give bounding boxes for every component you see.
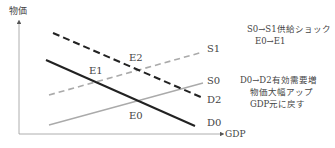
equilibrium-label-e0: E0 — [129, 110, 143, 121]
curve-label-d0: D0 — [207, 117, 221, 128]
supply-shock-note-line1: S0→S1供給ショック — [247, 23, 331, 35]
x-axis-label: GDP — [225, 129, 245, 139]
curve-label-s0: S0 — [207, 75, 220, 86]
supply-shock-note: S0→S1供給ショック E0→E1 — [247, 23, 331, 47]
demand-increase-note-line1: D0→D2有効需要増 — [240, 74, 317, 86]
demand-increase-note: D0→D2有効需要増 物価大幅アップ GDP元に戻す — [240, 74, 317, 110]
y-axis-label: 物価 — [9, 5, 27, 16]
equilibrium-label-e2: E2 — [129, 52, 143, 63]
curve-d2 — [53, 33, 203, 98]
curve-label-d2: D2 — [207, 94, 221, 105]
demand-increase-note-line3: GDP元に戻す — [240, 98, 317, 110]
curve-d0 — [46, 60, 195, 126]
supply-shock-note-line2: E0→E1 — [247, 35, 331, 47]
equilibrium-label-e1: E1 — [89, 65, 103, 76]
curve-label-s1: S1 — [207, 43, 220, 54]
demand-increase-note-line2: 物価大幅アップ — [240, 86, 317, 98]
